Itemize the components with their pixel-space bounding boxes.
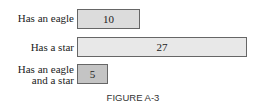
bar-value: 10 [103,13,114,25]
bar-has-eagle-and-star: 5 [77,64,108,84]
label-has-eagle-and-star: Has an eagle and a star [18,64,74,86]
bar-value: 5 [90,68,96,80]
label-line: and a star [18,75,74,86]
bar-value: 27 [157,41,168,53]
bar-has-an-eagle: 10 [77,9,140,29]
label-has-an-eagle: Has an eagle [18,13,74,24]
bar-has-a-star: 27 [77,37,247,57]
figure-caption: FIGURE A-3 [0,92,266,103]
label-has-a-star: Has a star [31,42,74,53]
